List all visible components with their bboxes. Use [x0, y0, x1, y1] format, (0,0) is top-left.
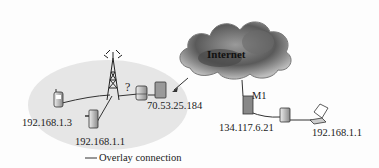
question-mark: ? — [125, 81, 130, 93]
laptop-ip-label: 192.168.1.1 — [312, 127, 362, 139]
internet-label: Internet — [207, 48, 246, 60]
diagram-graphics — [0, 0, 379, 168]
laptop-icon — [310, 104, 328, 124]
pda-ip-label: 192.168.1.1 — [75, 136, 125, 148]
network-diagram: Internet ? 192.168.1.3 192.168.1.1 70.53… — [0, 0, 379, 168]
legend-overlay-connection: Overlay connection — [99, 152, 182, 164]
router-box-icon — [280, 108, 290, 122]
mobile-phone-icon — [54, 89, 63, 107]
m1-name-label: M1 — [252, 90, 267, 102]
router-ip-label: 70.53.25.184 — [147, 100, 202, 112]
m1-ip-label: 134.117.6.21 — [219, 122, 274, 134]
phone-ip-label: 192.168.1.3 — [22, 117, 72, 129]
